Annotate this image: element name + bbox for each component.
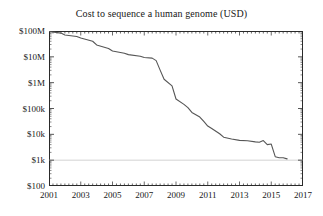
x-axis-tick-label: 2009	[167, 191, 185, 200]
plot-svg	[49, 31, 303, 186]
y-axis-tick-label: $10M	[23, 52, 45, 61]
x-axis-tick-label: 2005	[104, 191, 122, 200]
x-axis-tick-label: 2007	[135, 191, 153, 200]
y-axis-tick-label: $100k	[23, 104, 46, 113]
plot-area	[49, 31, 303, 186]
x-axis-labels: 200120032005200720092011201320152017	[0, 191, 323, 207]
x-axis-tick-label: 2001	[40, 191, 58, 200]
x-axis-tick-label: 2003	[72, 191, 90, 200]
x-axis-tick-label: 2015	[262, 191, 280, 200]
x-axis-tick-label: 2017	[294, 191, 312, 200]
y-axis-tick-label: $1k	[32, 156, 46, 165]
y-axis-tick-label: $10k	[27, 130, 45, 139]
data-line-0	[49, 32, 287, 159]
x-axis-tick-label: 2011	[199, 191, 217, 200]
y-axis-labels: $100M$10M$1M$100k$10k$1k$100	[0, 0, 45, 216]
x-axis-tick-label: 2013	[231, 191, 249, 200]
chart-title: Cost to sequence a human genome (USD)	[0, 8, 323, 19]
chart-container: Cost to sequence a human genome (USD) $1…	[0, 0, 323, 216]
y-axis-tick-label: $1M	[28, 78, 45, 87]
y-axis-tick-label: $100M	[19, 27, 45, 36]
